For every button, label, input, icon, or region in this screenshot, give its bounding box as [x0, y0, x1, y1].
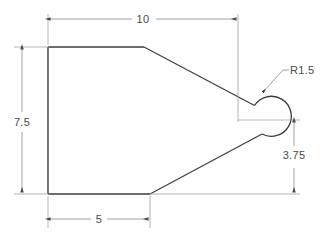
dimension-flat-bottom-length: 5	[50, 213, 148, 225]
technical-drawing-canvas: 10 7.5 5 3.75 R1.5	[0, 0, 325, 236]
dimension-label-nose-radius: R1.5	[290, 64, 314, 76]
dimension-overall-width: 10	[50, 13, 236, 25]
outline-lower-slant-edge	[150, 134, 262, 194]
dimension-nose-radius: R1.5	[263, 64, 314, 92]
leader-line-r15-angled	[263, 70, 283, 92]
drawing-svg: 10 7.5 5 3.75 R1.5	[0, 0, 325, 236]
dimension-lower-right-height: 3.75	[283, 122, 306, 192]
dimension-label-overall-height: 7.5	[14, 116, 30, 128]
dimension-label-lower-right-height: 3.75	[283, 149, 306, 161]
extension-lines	[14, 14, 300, 228]
dimension-overall-height: 7.5	[14, 49, 30, 192]
dimension-label-flat-bottom-length: 5	[96, 213, 102, 225]
dimension-label-overall-width: 10	[137, 13, 150, 25]
outline-nose-arc	[255, 96, 292, 136]
part-outline	[48, 47, 291, 194]
